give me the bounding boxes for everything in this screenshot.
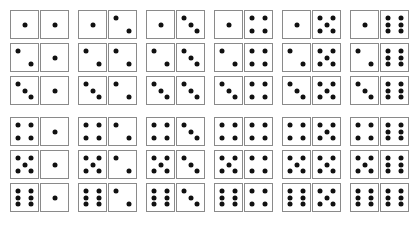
pip-icon bbox=[398, 168, 403, 173]
pip-icon bbox=[300, 61, 305, 66]
pip-icon bbox=[288, 82, 293, 87]
pip-icon bbox=[152, 201, 157, 206]
pip-icon bbox=[386, 88, 391, 93]
pip-icon bbox=[398, 123, 403, 128]
pip-icon bbox=[114, 16, 119, 21]
pip-icon bbox=[288, 156, 293, 161]
pip-icon bbox=[368, 201, 373, 206]
pip-icon bbox=[398, 55, 403, 60]
pip-icon bbox=[288, 135, 293, 140]
die-left-face-6 bbox=[350, 183, 379, 212]
pip-icon bbox=[220, 135, 225, 140]
pip-icon bbox=[164, 189, 169, 194]
pip-icon bbox=[16, 123, 21, 128]
pip-icon bbox=[330, 61, 335, 66]
pip-icon bbox=[152, 82, 157, 87]
pip-icon bbox=[90, 162, 95, 167]
dice-pair-2-5 bbox=[282, 43, 341, 72]
pip-icon bbox=[52, 195, 57, 200]
pip-icon bbox=[330, 156, 335, 161]
dice-pair-2-1 bbox=[10, 43, 69, 72]
pip-icon bbox=[28, 168, 33, 173]
pip-icon bbox=[386, 61, 391, 66]
pip-icon bbox=[262, 61, 267, 66]
die-left-face-2 bbox=[282, 43, 311, 72]
pip-icon bbox=[318, 189, 323, 194]
pip-icon bbox=[28, 61, 33, 66]
pip-icon bbox=[386, 162, 391, 167]
pip-icon bbox=[356, 49, 361, 54]
pip-icon bbox=[330, 94, 335, 99]
dice-pair-5-4 bbox=[214, 150, 273, 179]
pip-icon bbox=[250, 16, 255, 21]
pip-icon bbox=[330, 49, 335, 54]
die-right-face-4 bbox=[244, 150, 273, 179]
die-left-face-1 bbox=[146, 10, 175, 39]
pip-icon bbox=[330, 135, 335, 140]
pip-icon bbox=[232, 156, 237, 161]
pip-icon bbox=[84, 135, 89, 140]
die-right-face-2 bbox=[108, 183, 137, 212]
pip-icon bbox=[164, 156, 169, 161]
pip-icon bbox=[398, 82, 403, 87]
pip-icon bbox=[330, 201, 335, 206]
pip-icon bbox=[262, 123, 267, 128]
pip-icon bbox=[96, 123, 101, 128]
dice-pair-5-6 bbox=[350, 150, 409, 179]
pip-icon bbox=[188, 162, 193, 167]
pip-icon bbox=[398, 22, 403, 27]
die-left-face-3 bbox=[282, 76, 311, 105]
die-left-face-2 bbox=[214, 43, 243, 72]
pip-icon bbox=[294, 88, 299, 93]
die-right-face-6 bbox=[380, 76, 409, 105]
die-right-face-2 bbox=[108, 150, 137, 179]
pip-icon bbox=[294, 162, 299, 167]
pip-icon bbox=[182, 49, 187, 54]
pip-icon bbox=[398, 189, 403, 194]
die-right-face-4 bbox=[244, 76, 273, 105]
pip-icon bbox=[164, 61, 169, 66]
die-left-face-4 bbox=[214, 117, 243, 146]
pip-icon bbox=[386, 55, 391, 60]
pip-icon bbox=[288, 189, 293, 194]
die-left-face-1 bbox=[282, 10, 311, 39]
pip-icon bbox=[114, 123, 119, 128]
pip-icon bbox=[232, 189, 237, 194]
pip-icon bbox=[386, 201, 391, 206]
pip-icon bbox=[16, 135, 21, 140]
die-left-face-3 bbox=[146, 76, 175, 105]
pip-icon bbox=[356, 123, 361, 128]
pip-icon bbox=[324, 22, 329, 27]
pip-icon bbox=[398, 162, 403, 167]
pip-icon bbox=[182, 189, 187, 194]
pip-icon bbox=[232, 94, 237, 99]
pip-icon bbox=[84, 123, 89, 128]
die-right-face-6 bbox=[380, 150, 409, 179]
pip-icon bbox=[386, 156, 391, 161]
pip-icon bbox=[16, 168, 21, 173]
pip-icon bbox=[262, 49, 267, 54]
dice-pair-2-3 bbox=[146, 43, 205, 72]
die-right-face-4 bbox=[244, 10, 273, 39]
die-right-face-3 bbox=[176, 150, 205, 179]
pip-icon bbox=[288, 49, 293, 54]
pip-icon bbox=[182, 123, 187, 128]
pip-icon bbox=[96, 189, 101, 194]
pip-icon bbox=[96, 156, 101, 161]
dice-pair-2-6 bbox=[350, 43, 409, 72]
dice-pair-4-4 bbox=[214, 117, 273, 146]
pip-icon bbox=[250, 189, 255, 194]
pip-icon bbox=[386, 49, 391, 54]
dice-pair-4-5 bbox=[282, 117, 341, 146]
dice-pair-6-6 bbox=[350, 183, 409, 212]
die-left-face-2 bbox=[146, 43, 175, 72]
die-left-face-1 bbox=[78, 10, 107, 39]
pip-icon bbox=[220, 168, 225, 173]
pip-icon bbox=[126, 94, 131, 99]
pip-icon bbox=[300, 156, 305, 161]
pip-icon bbox=[288, 201, 293, 206]
pip-icon bbox=[250, 201, 255, 206]
pip-icon bbox=[188, 88, 193, 93]
pip-icon bbox=[250, 28, 255, 33]
pip-icon bbox=[28, 189, 33, 194]
